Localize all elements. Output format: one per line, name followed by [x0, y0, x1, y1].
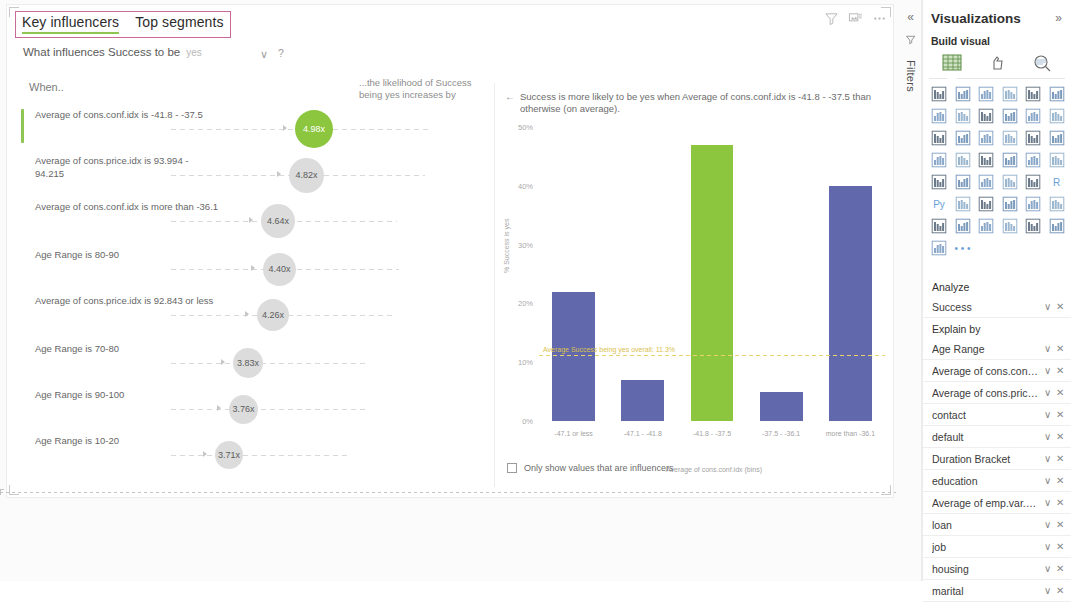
- influencer-bubble[interactable]: 4.40x: [263, 253, 296, 286]
- field-row[interactable]: loan∨✕: [923, 514, 1071, 536]
- field-row[interactable]: contact∨✕: [923, 404, 1071, 426]
- field-chevron-down-icon[interactable]: ∨: [1044, 563, 1051, 574]
- question-value-dropdown[interactable]: yes: [186, 47, 202, 58]
- get-more-visuals-icon[interactable]: [1047, 216, 1067, 236]
- key-influencers-icon[interactable]: [953, 194, 973, 214]
- field-chevron-down-icon[interactable]: ∨: [1044, 541, 1051, 552]
- bar[interactable]: [760, 392, 803, 421]
- stacked-column-chart-icon[interactable]: [953, 84, 973, 104]
- influencer-row[interactable]: Average of cons.price.idx is 92.843 or l…: [21, 295, 481, 341]
- field-row[interactable]: education∨✕: [923, 470, 1071, 492]
- field-row[interactable]: Duration Bracket∨✕: [923, 448, 1071, 470]
- filters-rail-label[interactable]: Filters: [905, 60, 917, 92]
- decomposition-tree-icon[interactable]: [976, 194, 996, 214]
- 100-stacked-column-chart-icon[interactable]: [1047, 84, 1067, 104]
- field-chevron-down-icon[interactable]: ∨: [1044, 453, 1051, 464]
- q-and-a-icon[interactable]: [1000, 194, 1020, 214]
- only-influencers-checkbox[interactable]: [507, 463, 517, 473]
- field-row[interactable]: Average of cons.conf.i...∨✕: [923, 360, 1071, 382]
- influencer-bubble[interactable]: 3.71x: [215, 441, 243, 469]
- field-remove-icon[interactable]: ✕: [1056, 387, 1064, 398]
- field-remove-icon[interactable]: ✕: [1056, 453, 1064, 464]
- key-influencers-visual[interactable]: Key influencers Top segments What influe…: [6, 4, 894, 498]
- bar-slot[interactable]: -41.8 - -37.5: [677, 127, 746, 421]
- build-visual-icon[interactable]: [940, 52, 964, 74]
- filled-map-icon[interactable]: [953, 150, 973, 170]
- bar-slot[interactable]: -47.1 - -41.8: [608, 127, 677, 421]
- more-visuals-chevron-icon[interactable]: [1023, 216, 1043, 236]
- bar[interactable]: [829, 186, 872, 421]
- expand-pane-icon[interactable]: »: [1055, 11, 1062, 25]
- chevron-down-icon[interactable]: ∨: [260, 48, 268, 61]
- field-row[interactable]: default∨✕: [923, 426, 1071, 448]
- influencer-bubble[interactable]: 4.26x: [257, 299, 289, 331]
- funnel-chart-icon[interactable]: [953, 128, 973, 148]
- 100-stacked-bar-chart-icon[interactable]: [1023, 84, 1043, 104]
- field-chevron-down-icon[interactable]: ∨: [1044, 475, 1051, 486]
- influencer-row[interactable]: Age Range is 10-203.71x: [21, 435, 481, 481]
- field-remove-icon[interactable]: ✕: [1056, 365, 1064, 376]
- waterfall-chart-icon[interactable]: [929, 128, 949, 148]
- field-remove-icon[interactable]: ✕: [1056, 563, 1064, 574]
- card-icon[interactable]: [1047, 150, 1067, 170]
- field-row[interactable]: job∨✕: [923, 536, 1071, 558]
- field-remove-icon[interactable]: ✕: [1056, 431, 1064, 442]
- multi-row-card-icon[interactable]: [929, 172, 949, 192]
- field-row[interactable]: housing∨✕: [923, 558, 1071, 580]
- slicer-icon[interactable]: [976, 172, 996, 192]
- area-chart-icon[interactable]: [953, 106, 973, 126]
- clustered-column-chart-icon[interactable]: [1000, 84, 1020, 104]
- field-chevron-down-icon[interactable]: ∨: [1044, 409, 1051, 420]
- field-chevron-down-icon[interactable]: ∨: [1044, 431, 1051, 442]
- field-remove-icon[interactable]: ✕: [1056, 301, 1064, 312]
- influencer-bubble[interactable]: 4.64x: [261, 204, 295, 238]
- bar[interactable]: [552, 292, 595, 421]
- influencer-row[interactable]: Average of cons.conf.idx is -41.8 - -37.…: [21, 109, 481, 155]
- field-chevron-down-icon[interactable]: ∨: [1044, 519, 1051, 530]
- matrix-icon[interactable]: [1023, 172, 1043, 192]
- field-row[interactable]: Success∨✕: [923, 296, 1071, 318]
- treemap-icon[interactable]: [1047, 128, 1067, 148]
- tab-top-segments[interactable]: Top segments: [135, 14, 223, 32]
- stacked-area-chart-icon[interactable]: [976, 106, 996, 126]
- field-remove-icon[interactable]: ✕: [1056, 519, 1064, 530]
- azure-map-icon[interactable]: [1000, 150, 1020, 170]
- back-arrow-icon[interactable]: ←: [505, 91, 515, 115]
- influencer-row[interactable]: Age Range is 90-1003.76x: [21, 389, 481, 435]
- field-remove-icon[interactable]: ✕: [1056, 541, 1064, 552]
- collapse-pane-icon[interactable]: «: [907, 10, 914, 24]
- scatter-chart-icon[interactable]: [976, 128, 996, 148]
- focus-mode-icon[interactable]: [848, 11, 863, 26]
- stacked-bar-chart-icon[interactable]: [929, 84, 949, 104]
- field-chevron-down-icon[interactable]: ∨: [1044, 365, 1051, 376]
- bar-slot[interactable]: more than -36.1: [816, 127, 885, 421]
- bar[interactable]: [621, 380, 664, 421]
- field-chevron-down-icon[interactable]: ∨: [1044, 343, 1051, 354]
- influencer-row[interactable]: Age Range is 70-803.83x: [21, 343, 481, 389]
- influencer-row[interactable]: Average of cons.price.idx is 93.994 - 94…: [21, 155, 481, 201]
- gauge-icon[interactable]: [1023, 150, 1043, 170]
- python-visual-icon[interactable]: Py: [929, 194, 949, 214]
- more-options-ellipsis-icon[interactable]: • • •: [953, 238, 973, 258]
- field-row[interactable]: marital∨✕: [923, 580, 1071, 602]
- field-remove-icon[interactable]: ✕: [1056, 497, 1064, 508]
- bar-slot[interactable]: -47.1 or less: [539, 127, 608, 421]
- paginated-report-icon[interactable]: [929, 216, 949, 236]
- field-chevron-down-icon[interactable]: ∨: [1044, 497, 1051, 508]
- shape-map-icon[interactable]: [976, 150, 996, 170]
- influencer-row[interactable]: Age Range is 80-904.40x: [21, 249, 481, 295]
- format-visual-icon[interactable]: [985, 52, 1009, 74]
- help-icon[interactable]: ?: [278, 47, 284, 59]
- influencer-bubble[interactable]: 3.76x: [229, 395, 258, 424]
- pie-chart-icon[interactable]: [1000, 128, 1020, 148]
- power-automate-icon[interactable]: [976, 216, 996, 236]
- influencer-bubble[interactable]: 4.82x: [289, 158, 324, 193]
- line-stacked-column-chart-icon[interactable]: [1000, 106, 1020, 126]
- arcgis-map-icon[interactable]: [1000, 216, 1020, 236]
- influencer-bubble[interactable]: 3.83x: [233, 348, 263, 378]
- filter-pane-icon[interactable]: [905, 34, 917, 48]
- field-chevron-down-icon[interactable]: ∨: [1044, 585, 1051, 596]
- bar-slot[interactable]: -37.5 - -36.1: [747, 127, 816, 421]
- field-chevron-down-icon[interactable]: ∨: [1044, 387, 1051, 398]
- influencer-bubble[interactable]: 4.98x: [295, 110, 333, 148]
